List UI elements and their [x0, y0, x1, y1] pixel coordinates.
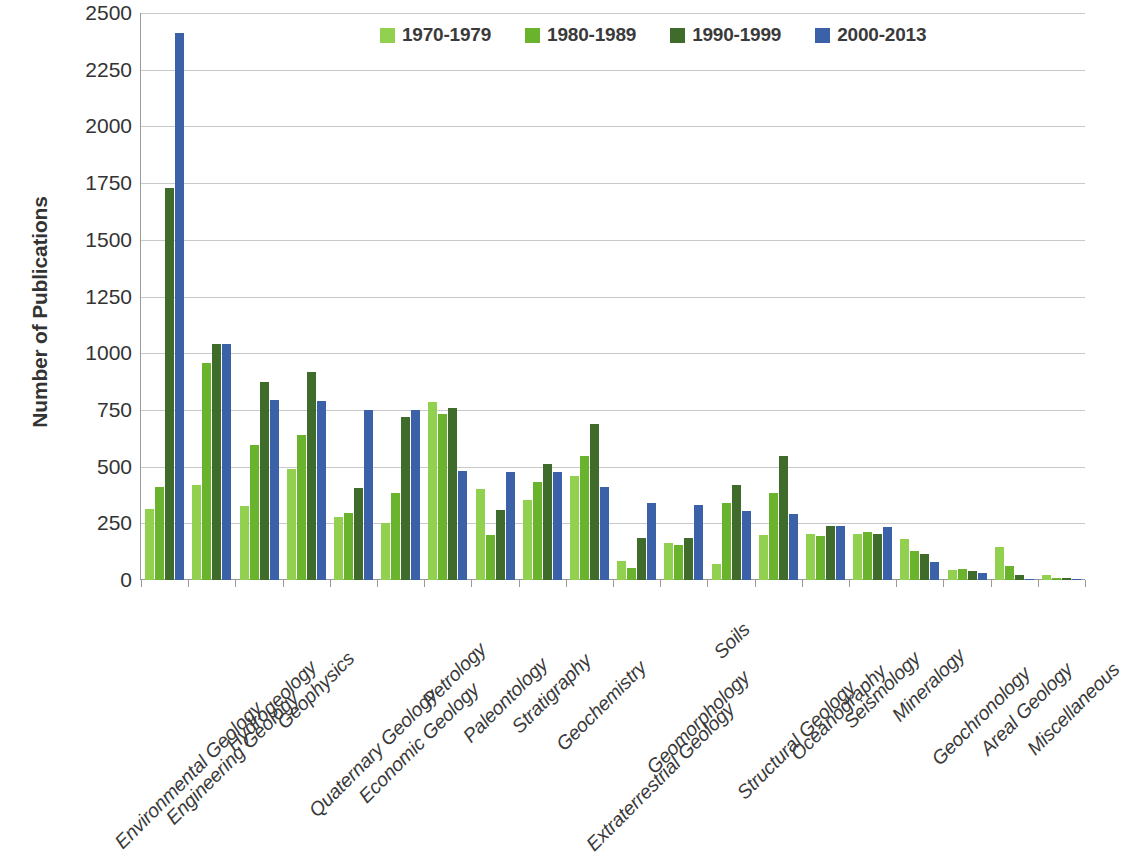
x-axis-tick: [1085, 580, 1086, 587]
bar[interactable]: [270, 400, 279, 580]
y-axis-tick-label: 750: [97, 398, 132, 422]
bar-group: [424, 13, 471, 580]
bar[interactable]: [317, 401, 326, 580]
bar[interactable]: [391, 493, 400, 580]
bar[interactable]: [826, 526, 835, 580]
y-axis-tick-label: 1500: [85, 228, 132, 252]
bar[interactable]: [580, 456, 589, 580]
bar-group: [141, 13, 188, 580]
x-axis-category-label: Extraterrestrial Geology: [582, 698, 740, 855]
bar[interactable]: [553, 472, 562, 580]
bar-group: [707, 13, 754, 580]
bar-group: [188, 13, 235, 580]
bar[interactable]: [617, 561, 626, 580]
y-axis-tick-label: 250: [97, 511, 132, 535]
y-axis-tick-label: 2500: [85, 1, 132, 25]
bar[interactable]: [175, 33, 184, 580]
bar[interactable]: [307, 372, 316, 580]
legend-item: 1980-1989: [525, 24, 636, 46]
bar[interactable]: [759, 535, 768, 580]
bar[interactable]: [637, 538, 646, 580]
bar[interactable]: [250, 445, 259, 580]
bar[interactable]: [486, 535, 495, 580]
bar[interactable]: [334, 517, 343, 581]
bar[interactable]: [674, 545, 683, 580]
bar[interactable]: [664, 543, 673, 580]
bar[interactable]: [590, 424, 599, 580]
bar[interactable]: [570, 476, 579, 580]
bar-group: [471, 13, 518, 580]
bar[interactable]: [533, 482, 542, 580]
bar[interactable]: [948, 570, 957, 580]
bar[interactable]: [789, 514, 798, 580]
bar[interactable]: [873, 534, 882, 580]
bar[interactable]: [438, 414, 447, 580]
bar[interactable]: [165, 188, 174, 580]
y-axis-tick-labels: 02505007501000125015001750200022502500: [60, 13, 132, 580]
bar[interactable]: [145, 509, 154, 580]
bar[interactable]: [863, 532, 872, 580]
bar[interactable]: [920, 554, 929, 580]
bar-group: [1038, 13, 1085, 580]
bar[interactable]: [260, 382, 269, 580]
bar[interactable]: [853, 534, 862, 580]
bar[interactable]: [448, 408, 457, 580]
bar[interactable]: [476, 489, 485, 580]
bar[interactable]: [496, 510, 505, 580]
bar[interactable]: [836, 526, 845, 580]
legend-item: 1970-1979: [380, 24, 491, 46]
bar[interactable]: [779, 456, 788, 580]
bar[interactable]: [647, 503, 656, 580]
bar[interactable]: [364, 410, 373, 580]
bar[interactable]: [694, 505, 703, 580]
bar[interactable]: [742, 511, 751, 580]
bar[interactable]: [287, 469, 296, 580]
bar[interactable]: [202, 363, 211, 580]
legend-label: 1990-1999: [692, 24, 781, 46]
bar[interactable]: [458, 471, 467, 580]
bar[interactable]: [222, 344, 231, 580]
bar[interactable]: [712, 564, 721, 580]
bar[interactable]: [958, 569, 967, 580]
bar[interactable]: [543, 464, 552, 580]
bar[interactable]: [995, 547, 1004, 580]
bar[interactable]: [900, 539, 909, 580]
bar[interactable]: [155, 487, 164, 580]
bar[interactable]: [240, 506, 249, 580]
bar-group: [566, 13, 613, 580]
x-axis-category-label: Soils: [709, 618, 754, 663]
bar[interactable]: [344, 513, 353, 580]
bar-group: [802, 13, 849, 580]
bar[interactable]: [212, 344, 221, 580]
bar[interactable]: [401, 417, 410, 580]
y-axis-tick-label: 1000: [85, 341, 132, 365]
bar-groups: [141, 13, 1085, 580]
bar[interactable]: [684, 538, 693, 580]
bar[interactable]: [930, 562, 939, 580]
bar[interactable]: [297, 435, 306, 580]
bar[interactable]: [732, 485, 741, 580]
bar-group: [613, 13, 660, 580]
bar[interactable]: [354, 488, 363, 580]
bar[interactable]: [1005, 566, 1014, 580]
bar[interactable]: [722, 503, 731, 580]
bar[interactable]: [816, 536, 825, 580]
bar[interactable]: [806, 534, 815, 580]
x-axis-category-label: Geomorphology: [642, 666, 755, 779]
bar[interactable]: [428, 402, 437, 580]
bar-group: [330, 13, 377, 580]
bar[interactable]: [381, 523, 390, 580]
bar[interactable]: [411, 410, 420, 580]
bar[interactable]: [968, 571, 977, 580]
bar[interactable]: [627, 568, 636, 580]
y-axis-tick-label: 2250: [85, 58, 132, 82]
bar[interactable]: [506, 472, 515, 580]
bar[interactable]: [769, 493, 778, 580]
bar[interactable]: [910, 551, 919, 580]
bar[interactable]: [600, 487, 609, 580]
bar[interactable]: [192, 485, 201, 580]
bar-group: [943, 13, 990, 580]
bar[interactable]: [978, 573, 987, 580]
bar[interactable]: [523, 500, 532, 581]
bar[interactable]: [883, 527, 892, 580]
